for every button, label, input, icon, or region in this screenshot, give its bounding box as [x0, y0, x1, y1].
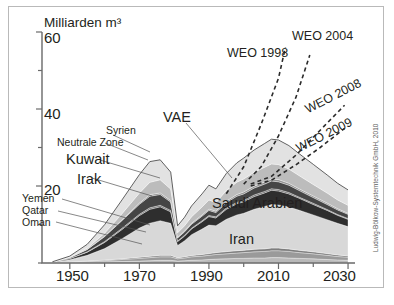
y-axis-title: Milliarden m³ [44, 16, 121, 30]
x-tick-1950: 1950 [56, 268, 89, 283]
x-tick-2010: 2010 [257, 268, 290, 283]
label-qatar: Qatar [22, 205, 48, 216]
x-tick-1970: 1970 [123, 268, 156, 283]
label-irak: Irak [77, 172, 101, 187]
label-neutrale-zone: Neutrale Zone [57, 137, 124, 148]
label-weo-2004: WEO 2004 [292, 30, 353, 43]
y-tick-60: 60 [44, 30, 60, 45]
credit-text: Ludwig-Bölkow-Systemtechnik GmbH, 2010 [372, 124, 379, 252]
label-oman: Oman [22, 217, 51, 228]
label-weo-1998: WEO 1998 [227, 47, 288, 60]
label-yemen: Yemen [22, 193, 54, 204]
x-tick-1990: 1990 [190, 268, 223, 283]
label-iran: Iran [229, 232, 254, 247]
figure-panel: Milliarden m³ 60 40 20 1950 1970 1990 20… [0, 0, 394, 305]
label-syrien: Syrien [106, 125, 136, 136]
label-vae: VAE [163, 110, 191, 125]
y-tick-40: 40 [44, 106, 60, 121]
label-kuwait: Kuwait [66, 152, 110, 167]
x-tick-2030: 2030 [323, 268, 356, 283]
label-saudi-arabien: Saudi Arabien [212, 196, 302, 211]
